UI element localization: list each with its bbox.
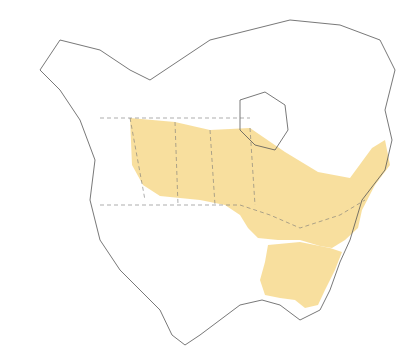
southern-range [260, 242, 342, 308]
range-map [0, 0, 416, 363]
breeding-range [130, 118, 390, 248]
